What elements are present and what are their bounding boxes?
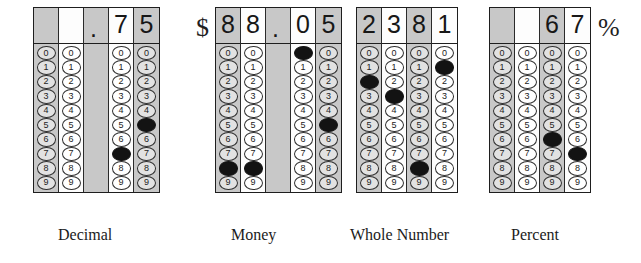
bubble-3[interactable]: 3 — [37, 89, 56, 103]
bubble-4[interactable]: 4 — [518, 104, 537, 118]
bubble-7[interactable]: 7 — [543, 147, 562, 161]
bubble-9[interactable]: 9 — [518, 176, 537, 190]
bubble-9[interactable]: 9 — [493, 176, 512, 190]
bubble-4[interactable]: 4 — [219, 104, 238, 118]
bubble-1[interactable]: 1 — [112, 60, 131, 74]
bubble-3[interactable]: 3 — [568, 89, 587, 103]
written-answer-cell[interactable]: 7 — [109, 8, 133, 44]
bubble-9[interactable]: 9 — [37, 176, 56, 190]
bubble-7[interactable]: 7 — [294, 147, 313, 161]
bubble-2[interactable]: 2 — [518, 75, 537, 89]
written-answer-cell[interactable]: 5 — [134, 8, 159, 44]
bubble-9[interactable]: 9 — [62, 176, 81, 190]
bubble-1[interactable]: 1 — [62, 60, 81, 74]
bubble-6[interactable]: 6 — [62, 132, 81, 146]
bubble-1[interactable]: 1 — [360, 60, 379, 74]
written-answer-cell[interactable]: 6 — [540, 8, 564, 44]
bubble-6[interactable]: 6 — [360, 132, 379, 146]
bubble-9[interactable]: 9 — [137, 176, 156, 190]
bubble-8[interactable]: 8 — [294, 161, 313, 175]
bubble-5[interactable]: 5 — [568, 118, 587, 132]
bubble-5[interactable]: 5 — [319, 118, 338, 132]
bubble-5[interactable]: 5 — [385, 118, 404, 132]
bubble-3[interactable]: 3 — [435, 89, 454, 103]
bubble-5[interactable]: 5 — [360, 118, 379, 132]
written-answer-cell[interactable] — [515, 8, 539, 44]
bubble-4[interactable]: 4 — [360, 104, 379, 118]
bubble-2[interactable]: 2 — [294, 75, 313, 89]
bubble-2[interactable]: 2 — [137, 75, 156, 89]
bubble-6[interactable]: 6 — [219, 132, 238, 146]
bubble-0[interactable]: 0 — [112, 46, 131, 60]
bubble-8[interactable]: 8 — [435, 161, 454, 175]
written-answer-cell[interactable]: 2 — [357, 8, 381, 44]
bubble-5[interactable]: 5 — [37, 118, 56, 132]
bubble-8[interactable]: 8 — [410, 161, 429, 175]
bubble-8[interactable]: 8 — [37, 161, 56, 175]
bubble-3[interactable]: 3 — [543, 89, 562, 103]
bubble-4[interactable]: 4 — [385, 104, 404, 118]
bubble-4[interactable]: 4 — [410, 104, 429, 118]
bubble-2[interactable]: 2 — [244, 75, 263, 89]
bubble-6[interactable]: 6 — [112, 132, 131, 146]
bubble-4[interactable]: 4 — [62, 104, 81, 118]
bubble-0[interactable]: 0 — [493, 46, 512, 60]
bubble-7[interactable]: 7 — [219, 147, 238, 161]
bubble-0[interactable]: 0 — [294, 46, 313, 60]
bubble-8[interactable]: 8 — [137, 161, 156, 175]
bubble-3[interactable]: 3 — [294, 89, 313, 103]
bubble-6[interactable]: 6 — [137, 132, 156, 146]
bubble-0[interactable]: 0 — [319, 46, 338, 60]
bubble-1[interactable]: 1 — [493, 60, 512, 74]
bubble-3[interactable]: 3 — [493, 89, 512, 103]
bubble-5[interactable]: 5 — [219, 118, 238, 132]
bubble-2[interactable]: 2 — [568, 75, 587, 89]
bubble-3[interactable]: 3 — [244, 89, 263, 103]
bubble-6[interactable]: 6 — [493, 132, 512, 146]
bubble-3[interactable]: 3 — [360, 89, 379, 103]
bubble-9[interactable]: 9 — [385, 176, 404, 190]
bubble-2[interactable]: 2 — [385, 75, 404, 89]
bubble-1[interactable]: 1 — [219, 60, 238, 74]
bubble-9[interactable]: 9 — [294, 176, 313, 190]
bubble-0[interactable]: 0 — [410, 46, 429, 60]
bubble-9[interactable]: 9 — [319, 176, 338, 190]
bubble-5[interactable]: 5 — [543, 118, 562, 132]
bubble-2[interactable]: 2 — [37, 75, 56, 89]
bubble-3[interactable]: 3 — [385, 89, 404, 103]
bubble-0[interactable]: 0 — [219, 46, 238, 60]
bubble-7[interactable]: 7 — [62, 147, 81, 161]
bubble-5[interactable]: 5 — [137, 118, 156, 132]
bubble-7[interactable]: 7 — [137, 147, 156, 161]
written-answer-cell[interactable] — [59, 8, 83, 44]
bubble-1[interactable]: 1 — [137, 60, 156, 74]
bubble-6[interactable]: 6 — [294, 132, 313, 146]
bubble-1[interactable]: 1 — [568, 60, 587, 74]
bubble-0[interactable]: 0 — [543, 46, 562, 60]
bubble-9[interactable]: 9 — [112, 176, 131, 190]
bubble-4[interactable]: 4 — [112, 104, 131, 118]
bubble-7[interactable]: 7 — [410, 147, 429, 161]
bubble-9[interactable]: 9 — [219, 176, 238, 190]
written-answer-cell[interactable] — [34, 8, 58, 44]
bubble-1[interactable]: 1 — [244, 60, 263, 74]
written-answer-cell[interactable] — [490, 8, 514, 44]
bubble-5[interactable]: 5 — [435, 118, 454, 132]
bubble-5[interactable]: 5 — [410, 118, 429, 132]
bubble-3[interactable]: 3 — [518, 89, 537, 103]
bubble-8[interactable]: 8 — [568, 161, 587, 175]
bubble-0[interactable]: 0 — [360, 46, 379, 60]
written-answer-cell[interactable]: 8 — [216, 8, 240, 44]
bubble-0[interactable]: 0 — [568, 46, 587, 60]
bubble-8[interactable]: 8 — [518, 161, 537, 175]
bubble-0[interactable]: 0 — [244, 46, 263, 60]
bubble-8[interactable]: 8 — [543, 161, 562, 175]
bubble-9[interactable]: 9 — [568, 176, 587, 190]
bubble-7[interactable]: 7 — [360, 147, 379, 161]
bubble-2[interactable]: 2 — [410, 75, 429, 89]
bubble-5[interactable]: 5 — [493, 118, 512, 132]
bubble-7[interactable]: 7 — [385, 147, 404, 161]
bubble-7[interactable]: 7 — [518, 147, 537, 161]
bubble-3[interactable]: 3 — [62, 89, 81, 103]
bubble-4[interactable]: 4 — [435, 104, 454, 118]
